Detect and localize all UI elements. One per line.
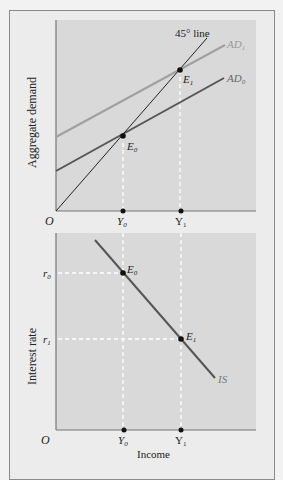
bottom-origin: O: [41, 433, 50, 447]
point-e0-top: [120, 133, 126, 139]
label-y0-top: Y0: [117, 215, 127, 229]
point-e1-top: [177, 67, 183, 73]
label-y1-top: Y1: [175, 215, 187, 229]
bottom-plot-area: [56, 233, 256, 430]
label-45-line: 45° line: [175, 27, 210, 39]
tick-y0-top: [121, 209, 126, 214]
point-e1-bottom: [178, 336, 184, 342]
label-r1: r1: [43, 333, 51, 347]
point-e0-bottom: [120, 270, 126, 276]
tick-y0-bottom: [122, 428, 127, 433]
bottom-ylabel: Interest rate: [25, 328, 39, 385]
label-y1-bottom: Y1: [175, 434, 187, 448]
label-r0: r0: [43, 267, 51, 281]
bottom-xlabel: Income: [137, 448, 170, 460]
top-origin: O: [45, 214, 54, 228]
tick-y1-top: [179, 209, 184, 214]
label-y0-bottom: Y0: [118, 434, 128, 448]
label-is: IS: [217, 373, 228, 385]
tick-y1-bottom: [179, 428, 184, 433]
top-ylabel: Aggregate demand: [25, 77, 39, 168]
